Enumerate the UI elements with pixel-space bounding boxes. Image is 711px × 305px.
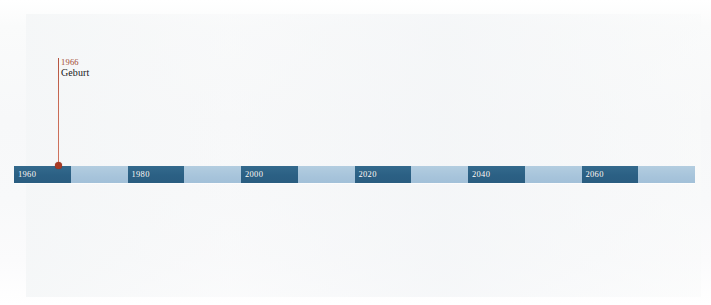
event-year-label: 1966 — [61, 57, 89, 67]
event-leader-line — [58, 58, 59, 168]
timeline-figure: 1960 1980 2000 2020 2040 2060 1966 Gebur… — [0, 0, 711, 305]
timeline-event-geburt[interactable]: 1966 Geburt — [0, 0, 711, 305]
event-marker-dot[interactable] — [55, 162, 62, 169]
event-title-label: Geburt — [61, 67, 89, 79]
timeline-page: 1960 1980 2000 2020 2040 2060 1966 Gebur… — [0, 0, 711, 305]
event-label-group: 1966 Geburt — [61, 57, 89, 79]
